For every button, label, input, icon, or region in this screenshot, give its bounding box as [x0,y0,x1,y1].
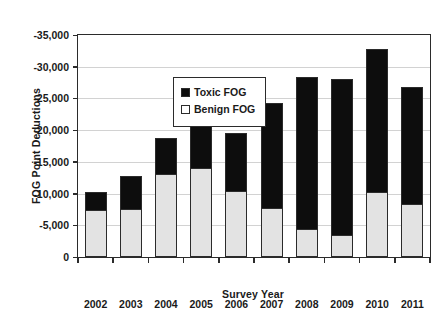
y-tick-label: -15,000 [7,156,69,168]
x-tick-mark [253,257,255,263]
y-tick-label: 0 [7,251,69,263]
bar-group[interactable] [85,191,107,257]
bar-group[interactable] [366,48,388,257]
bar-segment-benign-fog[interactable] [261,208,283,257]
bar-segment-benign-fog[interactable] [190,168,212,257]
bar-segment-toxic-fog[interactable] [225,133,247,192]
legend-item-toxic-fog: Toxic FOG [181,86,255,98]
x-tick-mark [324,257,326,263]
bar-segment-toxic-fog[interactable] [85,192,107,211]
bar-group[interactable] [331,78,353,257]
legend-swatch-benign-icon [181,105,190,114]
bar-segment-toxic-fog[interactable] [401,87,423,205]
y-tick-label: -25,000 [7,92,69,104]
bar-segment-benign-fog[interactable] [225,191,247,257]
x-tick-mark [429,257,431,263]
x-tick-mark [218,257,220,263]
bars [78,35,430,257]
legend-swatch-toxic-icon [181,88,190,97]
bar-segment-toxic-fog[interactable] [155,138,177,175]
bar-segment-toxic-fog[interactable] [366,49,388,194]
bar-group[interactable] [155,137,177,258]
legend-item-benign-fog: Benign FOG [181,103,255,115]
y-tick-label: -20,000 [7,124,69,136]
plot-area: 0-5,000-10,000-15,000-20,000-25,000-30,0… [77,34,431,258]
y-axis-title: FOG Point Deductions [30,56,42,236]
y-tick-label: -5,000 [7,219,69,231]
bar-segment-benign-fog[interactable] [331,235,353,257]
bar-segment-toxic-fog[interactable] [331,79,353,236]
bar-group[interactable] [120,175,142,257]
legend: Toxic FOG Benign FOG [173,77,266,127]
bar-segment-benign-fog[interactable] [120,209,142,257]
bar-segment-toxic-fog[interactable] [296,77,318,230]
x-tick-mark [112,257,114,263]
bar-group[interactable] [225,132,247,257]
legend-label-benign: Benign FOG [194,103,255,115]
bar-group[interactable] [296,76,318,257]
bar-segment-benign-fog[interactable] [155,174,177,257]
x-tick-mark [148,257,150,263]
x-axis-title: Survey Year [77,288,429,300]
bar-segment-benign-fog[interactable] [401,204,423,257]
bar-segment-benign-fog[interactable] [85,210,107,257]
legend-label-toxic: Toxic FOG [194,86,246,98]
y-tick-label: -35,000 [7,29,69,41]
fog-point-deductions-chart: FOG Point Deductions 0-5,000-10,000-15,0… [0,0,443,323]
x-tick-mark [77,257,79,263]
bar-group[interactable] [190,124,212,257]
x-tick-mark [359,257,361,263]
x-tick-mark [394,257,396,263]
x-tick-mark [288,257,290,263]
bar-segment-benign-fog[interactable] [366,192,388,257]
bar-segment-toxic-fog[interactable] [190,125,212,169]
bar-group[interactable] [401,86,423,257]
y-tick-label: -10,000 [7,188,69,200]
x-tick-mark [183,257,185,263]
bar-segment-benign-fog[interactable] [296,229,318,257]
y-tick-label: -30,000 [7,61,69,73]
bar-segment-toxic-fog[interactable] [120,176,142,211]
